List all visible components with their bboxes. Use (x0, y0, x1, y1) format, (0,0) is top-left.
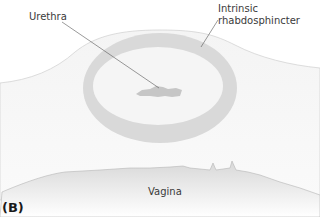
panel-label: (B) (2, 200, 24, 215)
anatomy-diagram (0, 0, 320, 217)
inner-region (93, 47, 223, 125)
sphincter-label-line1: Intrinsic (218, 3, 258, 14)
vagina-label: Vagina (148, 186, 182, 197)
sphincter-label-line2: rhabdosphincter (218, 15, 300, 26)
urethra-label: Urethra (29, 11, 67, 22)
